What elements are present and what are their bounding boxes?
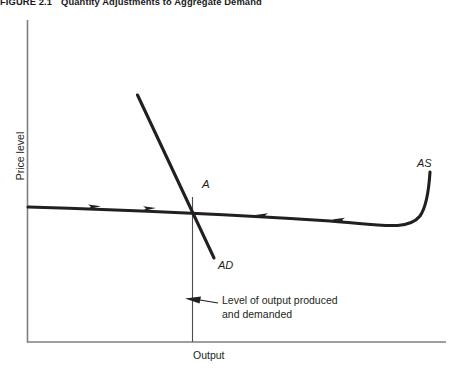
annotation-leader [185,297,218,304]
x-axis-label: Output [193,349,225,361]
annotation-leader-line [200,300,218,303]
annotation-line-2: and demanded [222,308,292,320]
output-annotation: Level of output produced and demanded [222,294,372,321]
figure-container: FIGURE 2.1Quantity Adjustments to Aggreg… [0,0,456,371]
annotation-line-1: Level of output produced [222,294,338,306]
y-axis-label: Price level [14,111,26,201]
aggregate-supply-label: AS [417,157,432,169]
aggregate-supply-curve [28,172,430,226]
aggregate-demand-label: AD [218,259,233,271]
aggregate-demand-curve [138,95,215,258]
equilibrium-point-label: A [202,178,210,190]
